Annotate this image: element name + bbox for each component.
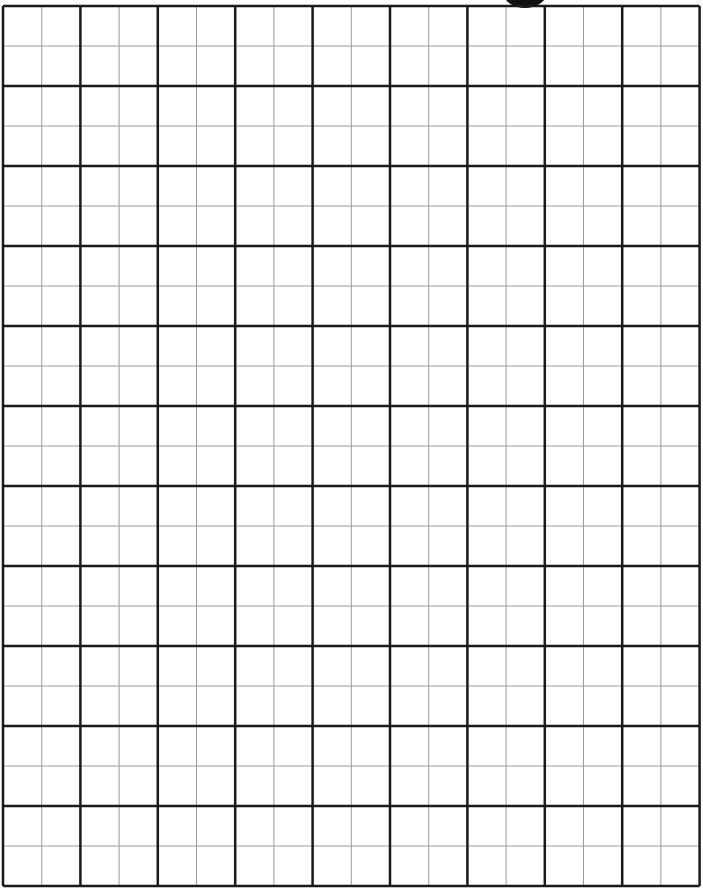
grid-lines — [0, 0, 703, 889]
